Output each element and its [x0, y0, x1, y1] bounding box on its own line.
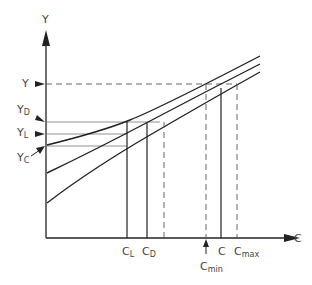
curve-upper: [47, 56, 260, 145]
y-l-pointer-icon: [35, 131, 45, 137]
curve-lower: [47, 72, 260, 203]
y-d-pointer-icon: [35, 115, 45, 122]
c-l-marker-label: CL: [122, 246, 134, 259]
x-axis-label: C: [294, 233, 302, 244]
y-d-marker-label: YD: [17, 104, 30, 117]
c-marker-label: C: [218, 246, 226, 257]
y-axis-arrow-icon: [42, 30, 50, 46]
y-l-marker-label: YL: [17, 127, 28, 140]
y-c-marker-label: YC: [17, 152, 29, 165]
y-c-pointer-icon: [36, 146, 45, 154]
c-min-marker-label: Cmin: [200, 261, 223, 274]
curve-middle: [47, 64, 260, 173]
diagram-canvas: [0, 0, 312, 285]
c-min-pointer-icon: [203, 239, 209, 247]
y-pointer-icon: [35, 81, 45, 87]
c-max-marker-label: Cmax: [234, 246, 259, 259]
y-marker-label: Y: [22, 78, 29, 89]
c-d-marker-label: CD: [142, 246, 156, 259]
y-axis-label: Y: [42, 14, 49, 25]
